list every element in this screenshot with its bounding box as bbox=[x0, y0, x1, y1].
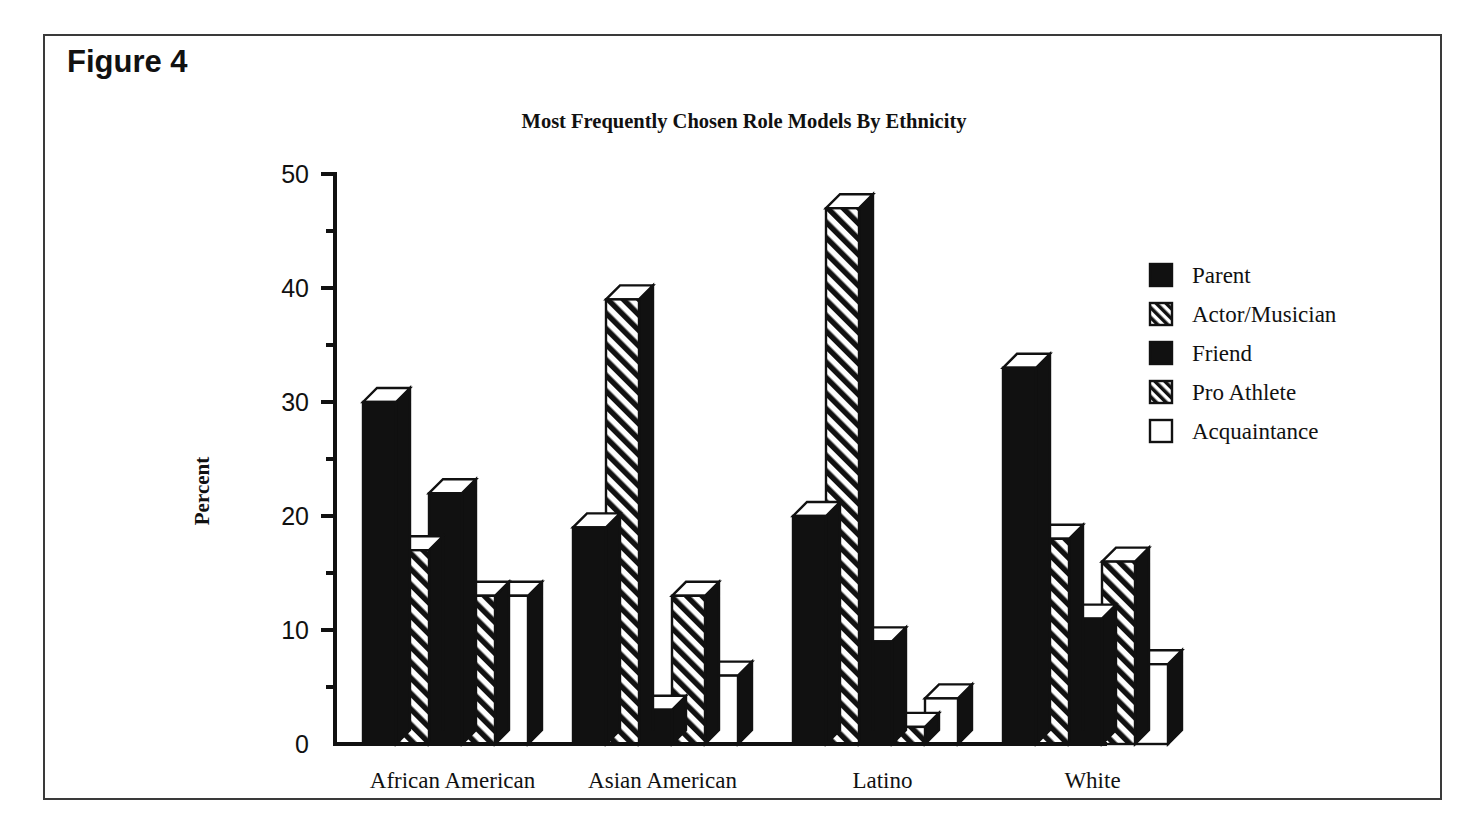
y-tick-label: 40 bbox=[281, 274, 309, 302]
bar-side-face bbox=[528, 582, 542, 744]
legend-item-pro-athlete[interactable]: Pro Athlete bbox=[1150, 380, 1296, 405]
bar-side-face bbox=[1102, 605, 1116, 744]
role-models-bar-chart: Most Frequently Chosen Role Models By Et… bbox=[45, 36, 1444, 802]
bar-latino-parent bbox=[793, 502, 840, 744]
bar-side-face bbox=[826, 502, 840, 744]
bar-side-face bbox=[606, 513, 620, 744]
y-tick-label: 0 bbox=[295, 730, 309, 758]
bar-side-face bbox=[705, 582, 719, 744]
legend-label: Pro Athlete bbox=[1192, 380, 1296, 405]
legend-label: Actor/Musician bbox=[1192, 302, 1337, 327]
figure-frame: Figure 4 Most Frequently Chosen Role Mod… bbox=[43, 34, 1442, 800]
bar-side-face bbox=[1168, 650, 1182, 744]
figure-page: Figure 4 Most Frequently Chosen Role Mod… bbox=[0, 0, 1479, 839]
bar-side-face bbox=[859, 194, 873, 744]
x-axis-category-label: Latino bbox=[852, 768, 912, 793]
legend-swatch-solid bbox=[1150, 342, 1172, 364]
bar-side-face bbox=[462, 479, 476, 744]
bar-side-face bbox=[429, 536, 443, 744]
legend-swatch-empty bbox=[1150, 420, 1172, 442]
x-axis-category-label: African American bbox=[370, 768, 536, 793]
legend-swatch-solid bbox=[1150, 264, 1172, 286]
bar-side-face bbox=[1036, 354, 1050, 744]
y-axis-title: Percent bbox=[190, 457, 214, 525]
bar-side-face bbox=[892, 627, 906, 744]
legend-label: Acquaintance bbox=[1192, 419, 1318, 444]
legend-label: Friend bbox=[1192, 341, 1253, 366]
bar-front-face bbox=[363, 402, 396, 744]
legend-item-actor-musician[interactable]: Actor/Musician bbox=[1150, 302, 1337, 327]
chart-title: Most Frequently Chosen Role Models By Et… bbox=[522, 110, 968, 133]
bar-african-american-parent bbox=[363, 388, 410, 744]
bar-side-face bbox=[396, 388, 410, 744]
bar-side-face bbox=[495, 582, 509, 744]
bar-side-face bbox=[1135, 548, 1149, 744]
y-tick-label: 30 bbox=[281, 388, 309, 416]
chart-legend: ParentActor/MusicianFriendPro AthleteAcq… bbox=[1150, 263, 1337, 444]
legend-swatch-hatch bbox=[1150, 381, 1172, 403]
y-tick-label: 50 bbox=[281, 160, 309, 188]
legend-item-acquaintance[interactable]: Acquaintance bbox=[1150, 419, 1318, 444]
bar-asian-american-parent bbox=[573, 513, 620, 744]
bar-side-face bbox=[1069, 525, 1083, 744]
category-labels: African AmericanAsian AmericanLatinoWhit… bbox=[370, 768, 1121, 793]
bar-side-face bbox=[639, 285, 653, 744]
bar-white-parent bbox=[1003, 354, 1050, 744]
legend-label: Parent bbox=[1192, 263, 1251, 288]
y-tick-label: 10 bbox=[281, 616, 309, 644]
x-axis-category-label: White bbox=[1064, 768, 1120, 793]
y-tick-label: 20 bbox=[281, 502, 309, 530]
bar-front-face bbox=[573, 527, 606, 744]
bar-front-face bbox=[1003, 368, 1036, 744]
x-axis-category-label: Asian American bbox=[588, 768, 737, 793]
legend-item-parent[interactable]: Parent bbox=[1150, 263, 1251, 288]
plot-area bbox=[363, 194, 1182, 744]
bar-front-face bbox=[793, 516, 826, 744]
legend-swatch-hatch bbox=[1150, 303, 1172, 325]
legend-item-friend[interactable]: Friend bbox=[1150, 341, 1253, 366]
